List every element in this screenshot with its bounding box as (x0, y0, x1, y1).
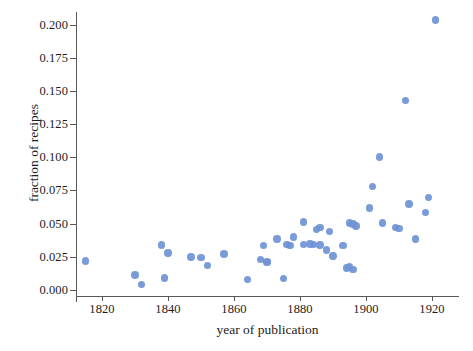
data-point (395, 225, 402, 232)
data-point (376, 153, 383, 160)
x-axis-tick (234, 296, 235, 301)
x-axis-tick (366, 296, 367, 301)
y-axis-tick-label: 0.000 (2, 284, 68, 297)
y-axis-tick (70, 157, 76, 158)
y-axis-tick (70, 190, 76, 191)
x-axis-tick-label: 1860 (204, 303, 264, 316)
data-point (197, 254, 204, 261)
data-point (432, 16, 439, 23)
x-axis-tick (432, 296, 433, 301)
data-point (329, 252, 336, 259)
x-axis-tick-label: 1840 (138, 303, 198, 316)
data-point (425, 194, 432, 201)
y-axis-tick (70, 224, 76, 225)
data-point (339, 242, 346, 249)
data-point (352, 222, 359, 229)
data-point (290, 233, 297, 240)
y-axis-tick (70, 290, 76, 291)
data-point (158, 241, 165, 248)
y-axis-line (76, 12, 77, 302)
y-axis-tick-label: 0.200 (2, 19, 68, 32)
plot-area: 0.0000.0250.0500.0750.1000.1250.1500.175… (0, 0, 473, 351)
data-point (300, 218, 307, 225)
data-point (263, 259, 270, 266)
data-point (280, 275, 287, 282)
data-point (402, 97, 409, 104)
data-point (412, 235, 419, 242)
x-axis-tick (300, 296, 301, 301)
x-axis-tick-label: 1920 (402, 303, 462, 316)
x-axis-tick-label: 1820 (72, 303, 132, 316)
y-axis-tick (70, 25, 76, 26)
y-axis-tick (70, 58, 76, 59)
data-point (405, 200, 412, 207)
x-axis-tick-label: 1900 (336, 303, 396, 316)
x-axis-line (76, 296, 459, 297)
data-point (366, 204, 373, 211)
x-axis-title: year of publication (76, 322, 459, 338)
data-point (326, 228, 333, 235)
data-point (82, 257, 89, 264)
data-point (260, 242, 267, 249)
scatter-plot-figure: 0.0000.0250.0500.0750.1000.1250.1500.175… (0, 0, 473, 351)
x-axis-tick (168, 296, 169, 301)
data-point (286, 242, 293, 249)
data-point (379, 219, 386, 226)
data-point (138, 281, 145, 288)
y-axis-title: fraction of recipes (26, 53, 42, 253)
y-axis-tick (70, 124, 76, 125)
data-point (131, 271, 138, 278)
data-point (204, 262, 211, 269)
data-point (187, 253, 194, 260)
data-point (316, 224, 323, 231)
data-point (349, 266, 356, 273)
y-axis-tick (70, 91, 76, 92)
y-axis-tick (70, 257, 76, 258)
data-point (244, 276, 251, 283)
x-axis-tick (102, 296, 103, 301)
data-point (164, 249, 171, 256)
data-point (369, 183, 376, 190)
data-point (273, 235, 280, 242)
data-point (422, 209, 429, 216)
x-axis-tick-label: 1880 (270, 303, 330, 316)
data-point (161, 274, 168, 281)
data-point (220, 250, 227, 257)
